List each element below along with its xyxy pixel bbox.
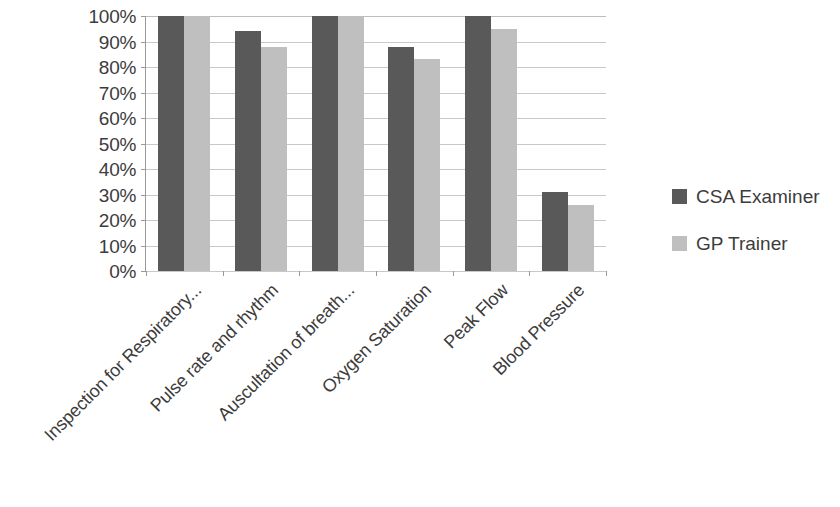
y-tick-label: 10% (99, 237, 136, 256)
bar-group (529, 16, 606, 271)
bar[interactable] (542, 192, 568, 271)
bar[interactable] (235, 31, 261, 271)
y-axis-tick-labels: 100%90%80%70%60%50%40%30%20%10%0% (58, 6, 136, 282)
bar[interactable] (388, 47, 414, 271)
y-tick-label: 80% (99, 58, 136, 77)
bar[interactable] (158, 16, 184, 271)
y-tick-label: 30% (99, 186, 136, 205)
x-category-label: Peak Flow (440, 280, 512, 352)
bar-group (223, 16, 300, 271)
y-tick-label: 60% (99, 109, 136, 128)
y-tick-label: 40% (99, 160, 136, 179)
bar-group (146, 16, 223, 271)
y-tick-label: 50% (99, 135, 136, 154)
legend-swatch-icon (672, 189, 687, 204)
chart-legend: CSA ExaminerGP Trainer (672, 186, 840, 280)
bar[interactable] (568, 205, 594, 271)
y-tick-label: 70% (99, 84, 136, 103)
bar[interactable] (491, 29, 517, 271)
bar[interactable] (465, 16, 491, 271)
y-tick-label: 90% (99, 33, 136, 52)
bar[interactable] (312, 16, 338, 271)
x-category-label: Pulse rate and rhythm (146, 280, 282, 416)
plot-wrapper: 100%90%80%70%60%50%40%30%20%10%0% Inspec… (0, 0, 660, 300)
bar-chart: 100%90%80%70%60%50%40%30%20%10%0% Inspec… (0, 0, 840, 507)
legend-label: CSA Examiner (696, 186, 820, 207)
x-tick-mark (529, 271, 530, 276)
x-tick-mark (453, 271, 454, 276)
y-tick-label: 20% (99, 211, 136, 230)
legend-item[interactable]: CSA Examiner (672, 186, 840, 207)
x-tick-mark (146, 271, 147, 276)
x-tick-mark (376, 271, 377, 276)
x-tick-mark (606, 271, 607, 276)
legend-item[interactable]: GP Trainer (672, 233, 840, 254)
bar[interactable] (414, 59, 440, 271)
bar-group (453, 16, 530, 271)
legend-label: GP Trainer (696, 233, 788, 254)
x-category-label: Auscultation of breath... (214, 280, 358, 424)
bar-group (299, 16, 376, 271)
bar[interactable] (184, 16, 210, 271)
legend-swatch-icon (672, 236, 687, 251)
x-tick-mark (299, 271, 300, 276)
bar[interactable] (338, 16, 364, 271)
plot-area (145, 16, 606, 272)
x-category-label: Inspection for Respiratory... (40, 280, 205, 445)
x-tick-mark (223, 271, 224, 276)
y-tick-label: 100% (89, 7, 136, 26)
y-tick-label: 0% (109, 262, 136, 281)
bar-groups (146, 16, 606, 271)
bar-group (376, 16, 453, 271)
bar[interactable] (261, 47, 287, 271)
